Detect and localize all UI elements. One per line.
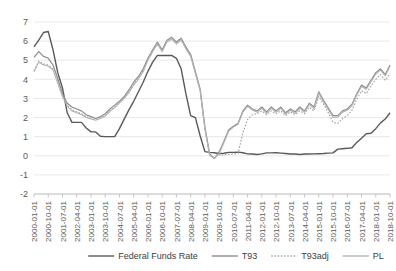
x-axis-tick-label: 2002-04-01 [73,200,82,241]
x-axis-tick-label: 2001-07-01 [59,200,68,241]
series-line-federal-funds-rate [34,32,390,155]
x-axis-tick-label: 2018-01-01 [372,200,381,241]
y-axis-tick-label: 6 [23,36,28,46]
legend-label-t93adj: T93adj [301,251,329,261]
x-axis-tick-label: 2013-07-01 [287,200,296,241]
y-axis-tick-label: 1 [23,132,28,142]
x-axis-tick-label: 2009-10-01 [215,200,224,241]
x-axis-tick-label: 2014-04-01 [301,200,310,241]
y-axis-tick-label: 5 [23,55,28,65]
line-chart: -2-1012345672000-01-012000-10-012001-07-… [0,0,396,271]
legend-label-t93: T93 [242,251,258,261]
x-axis-tick-label: 2015-01-01 [315,200,324,241]
x-axis-tick-label: 2017-04-01 [358,200,367,241]
y-axis-tick-label: -1 [20,170,28,180]
legend-label-federal-funds-rate: Federal Funds Rate [118,251,198,261]
x-axis-tick-label: 2012-01-01 [258,200,267,241]
legend-label-pl: PL [373,251,384,261]
x-axis-tick-label: 2018-10-01 [386,200,395,241]
x-axis-tick-label: 2003-01-01 [87,200,96,241]
x-axis-tick-label: 2000-01-01 [30,200,39,241]
x-axis-tick-label: 2011-04-01 [244,200,253,241]
x-axis-tick-label: 2012-10-01 [272,200,281,241]
series-line-t93 [34,37,390,158]
x-axis-tick-label: 2006-10-01 [158,200,167,241]
x-axis-tick-label: 2007-07-01 [173,200,182,241]
y-axis-tick-label: 0 [23,151,28,161]
x-axis-tick-label: 2006-01-01 [144,200,153,241]
y-axis-tick-label: -2 [20,189,28,199]
x-axis-tick-label: 2000-10-01 [44,200,53,241]
x-axis-tick-label: 2004-07-01 [116,200,125,241]
x-axis-tick-label: 2009-01-01 [201,200,210,241]
x-axis-tick-label: 2008-04-01 [187,200,196,241]
x-axis-tick-label: 2016-07-01 [343,200,352,241]
chart-container: -2-1012345672000-01-012000-10-012001-07-… [0,0,396,271]
y-axis-tick-label: 7 [23,17,28,27]
series-line-t93adj [34,38,390,157]
x-axis-tick-label: 2003-10-01 [101,200,110,241]
x-axis-tick-label: 2005-04-01 [130,200,139,241]
y-axis-tick-label: 4 [23,75,28,85]
x-axis-tick-label: 2010-07-01 [230,200,239,241]
y-axis-tick-label: 3 [23,94,28,104]
x-axis-tick-label: 2015-10-01 [329,200,338,241]
y-axis-tick-label: 2 [23,113,28,123]
